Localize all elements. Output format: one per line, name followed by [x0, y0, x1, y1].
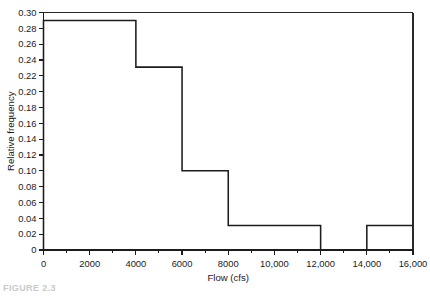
- y-tick-label: 0.02: [18, 228, 36, 239]
- y-tick-label: 0.30: [18, 7, 36, 18]
- y-tick-label: 0.14: [18, 133, 36, 144]
- histogram-bars: [44, 20, 414, 250]
- y-tick-label: 0.10: [18, 165, 36, 176]
- y-tick-label: 0.18: [18, 102, 36, 113]
- histogram-bar-run: [367, 225, 413, 250]
- x-tick-label: 8000: [218, 258, 239, 269]
- x-axis-ticks: [44, 250, 414, 255]
- x-tick-label: 14,000: [352, 258, 381, 269]
- histogram-bar-run: [44, 20, 321, 250]
- histogram-chart: 00.020.040.060.080.100.120.140.160.180.2…: [0, 0, 430, 296]
- y-tick-label: 0.08: [18, 181, 36, 192]
- x-tick-label: 6000: [172, 258, 193, 269]
- x-axis-tick-labels: 0200040006000800010,00012,00014,00016,00…: [41, 258, 427, 269]
- y-tick-label: 0.04: [18, 213, 36, 224]
- y-tick-label: 0.26: [18, 38, 36, 49]
- x-tick-label: 0: [41, 258, 46, 269]
- x-tick-label: 12,000: [306, 258, 335, 269]
- figure-container: 00.020.040.060.080.100.120.140.160.180.2…: [0, 0, 430, 296]
- y-tick-label: 0.16: [18, 118, 36, 129]
- x-tick-label: 16,000: [399, 258, 428, 269]
- y-tick-label: 0.20: [18, 86, 36, 97]
- figure-caption: FIGURE 2.3: [3, 282, 56, 293]
- y-axis-tick-labels: 00.020.040.060.080.100.120.140.160.180.2…: [18, 7, 36, 256]
- x-tick-label: 4000: [125, 258, 146, 269]
- x-tick-label: 10,000: [260, 258, 289, 269]
- x-axis-title: Flow (cfs): [207, 272, 249, 283]
- y-tick-label: 0.28: [18, 23, 36, 34]
- y-tick-label: 0.22: [18, 70, 36, 81]
- y-tick-label: 0.24: [18, 54, 36, 65]
- y-tick-label: 0: [31, 244, 36, 255]
- y-tick-label: 0.06: [18, 197, 36, 208]
- y-axis-title: Relative frequency: [5, 91, 16, 171]
- x-tick-label: 2000: [79, 258, 100, 269]
- y-tick-label: 0.12: [18, 149, 36, 160]
